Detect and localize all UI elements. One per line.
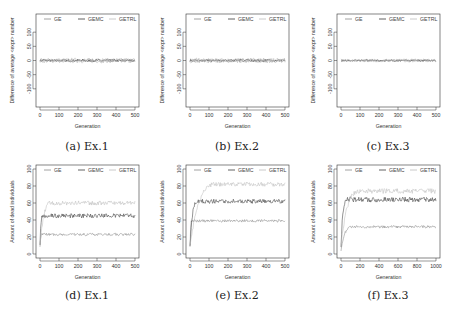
x-tick-label: 200	[74, 263, 83, 269]
legend-label: GETRL	[269, 167, 286, 173]
x-axis-label: Generation	[376, 123, 402, 129]
y-tick-label: 50	[26, 43, 32, 49]
chart-c: -100-500501000100200300400500GenerationD…	[301, 0, 454, 140]
plot-area	[337, 165, 440, 258]
y-tick-label: -50	[327, 71, 333, 79]
series-line-gemc	[341, 197, 436, 247]
y-tick-label: 100	[327, 165, 333, 174]
x-tick-label: 0	[189, 263, 192, 269]
legend-label: GETRL	[119, 16, 136, 22]
x-tick-label: 100	[356, 112, 365, 118]
x-tick-label: 800	[413, 263, 422, 269]
y-tick-label: 80	[26, 183, 32, 189]
legend-label: GETRL	[269, 16, 286, 22]
y-tick-label: 50	[176, 43, 182, 49]
x-axis-label: Generation	[75, 274, 101, 280]
x-tick-label: 0	[189, 112, 192, 118]
legend-label: GEMC	[88, 16, 104, 22]
series-line-getrl	[341, 59, 436, 62]
x-tick-label: 100	[205, 263, 214, 269]
chart-a: -100-500501000100200300400500GenerationD…	[0, 0, 153, 140]
chart-panel-a: -100-500501000100200300400500GenerationD…	[0, 0, 153, 160]
x-tick-label: 400	[112, 263, 121, 269]
y-tick-label: -50	[26, 71, 32, 79]
x-tick-label: 0	[39, 112, 42, 118]
legend-label: GETRL	[119, 167, 136, 173]
x-tick-label: 100	[205, 112, 214, 118]
series-line-getrl	[190, 182, 285, 244]
legend-label: GETRL	[420, 16, 437, 22]
plot-area	[186, 165, 289, 258]
y-tick-label: -100	[176, 84, 182, 94]
chart-f: 02040608010002004006008001000GenerationA…	[301, 151, 454, 291]
x-tick-label: 300	[394, 112, 403, 118]
y-tick-label: 100	[327, 28, 333, 37]
x-tick-label: 400	[375, 263, 384, 269]
x-tick-label: 500	[131, 263, 140, 269]
caption-e: (e) Ex.2	[162, 289, 312, 302]
chart-d: 0204060801000100200300400500GenerationAm…	[0, 151, 153, 291]
x-tick-label: 200	[224, 263, 233, 269]
y-tick-label: 100	[26, 165, 32, 174]
x-tick-label: 500	[281, 112, 290, 118]
x-tick-label: 0	[340, 112, 343, 118]
y-tick-label: 40	[176, 217, 182, 223]
chart-e: 0204060801000100200300400500GenerationAm…	[150, 151, 303, 291]
x-tick-label: 300	[243, 112, 252, 118]
caption-f: (f) Ex.3	[313, 289, 458, 302]
legend-label: GE	[355, 167, 363, 173]
x-tick-label: 300	[93, 112, 102, 118]
legend-label: GE	[204, 167, 212, 173]
y-tick-label: 80	[176, 183, 182, 189]
x-tick-label: 300	[93, 263, 102, 269]
y-tick-label: 60	[176, 200, 182, 206]
x-tick-label: 600	[394, 263, 403, 269]
x-axis-label: Generation	[376, 274, 402, 280]
series-line-gemc	[40, 214, 135, 245]
legend-label: GETRL	[420, 167, 437, 173]
y-tick-label: 0	[26, 252, 32, 255]
chart-panel-f: 02040608010002004006008001000GenerationA…	[301, 151, 454, 311]
y-tick-label: 50	[327, 43, 333, 49]
y-tick-label: -50	[176, 71, 182, 79]
y-tick-label: 0	[327, 252, 333, 255]
y-tick-label: 40	[327, 217, 333, 223]
y-axis-label: Difference of average <expr> number	[9, 17, 15, 103]
x-tick-label: 200	[375, 112, 384, 118]
x-tick-label: 1000	[430, 263, 442, 269]
legend-label: GEMC	[238, 16, 254, 22]
chart-panel-e: 0204060801000100200300400500GenerationAm…	[150, 151, 303, 311]
x-axis-label: Generation	[225, 274, 251, 280]
x-tick-label: 400	[413, 112, 422, 118]
series-line-getrl	[40, 201, 135, 244]
legend-label: GEMC	[389, 167, 405, 173]
x-tick-label: 400	[262, 112, 271, 118]
y-tick-label: 100	[176, 28, 182, 37]
legend-label: GE	[204, 16, 212, 22]
y-axis-label: Difference of average <expr> number	[310, 17, 316, 103]
chart-panel-b: -100-500501000100200300400500GenerationD…	[150, 0, 303, 160]
y-tick-label: 20	[176, 234, 182, 240]
y-axis-label: Amount of dead individuals	[9, 180, 15, 243]
chart-panel-d: 0204060801000100200300400500GenerationAm…	[0, 151, 153, 311]
x-tick-label: 400	[112, 112, 121, 118]
x-tick-label: 100	[55, 112, 64, 118]
y-tick-label: 20	[327, 234, 333, 240]
x-tick-label: 500	[131, 112, 140, 118]
y-axis-label: Amount of dead individuals	[159, 180, 165, 243]
y-tick-label: 0	[176, 252, 182, 255]
chart-b: -100-500501000100200300400500GenerationD…	[150, 0, 303, 140]
y-tick-label: 0	[26, 59, 32, 62]
x-tick-label: 200	[74, 112, 83, 118]
x-tick-label: 500	[281, 263, 290, 269]
x-tick-label: 200	[356, 263, 365, 269]
x-tick-label: 200	[224, 112, 233, 118]
series-line-getrl	[341, 189, 436, 245]
legend-label: GE	[355, 16, 363, 22]
legend-label: GE	[54, 167, 62, 173]
legend-label: GEMC	[389, 16, 405, 22]
chart-panel-c: -100-500501000100200300400500GenerationD…	[301, 0, 454, 160]
legend-label: GEMC	[88, 167, 104, 173]
x-axis-label: Generation	[225, 123, 251, 129]
x-axis-label: Generation	[75, 123, 101, 129]
